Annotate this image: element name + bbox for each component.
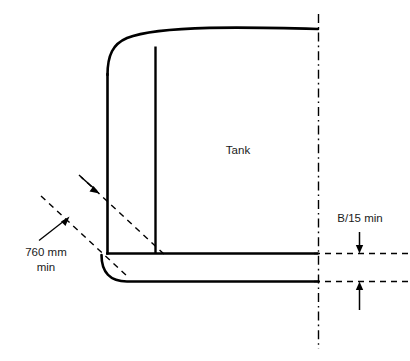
tank-clearance-diagram: 760 mm min Tank B/15 min <box>0 0 410 361</box>
b15-clearance-label: B/15 min <box>337 212 382 224</box>
hull-bottom-curve <box>102 255 319 282</box>
diagonal-dimension-arrow-icon <box>81 177 100 194</box>
tank-deck-curve <box>108 28 319 75</box>
b15-dimension-arrow-upper-icon <box>356 232 363 254</box>
clearance-760-label-line1: 760 mm <box>25 246 67 258</box>
tank-label: Tank <box>226 144 251 156</box>
b15-dimension-arrow-lower-icon <box>356 282 363 311</box>
diagram-canvas: 760 mm min Tank B/15 min <box>0 0 410 361</box>
clearance-760-label-line2: min <box>37 261 56 273</box>
clearance-760-leader <box>39 217 70 241</box>
